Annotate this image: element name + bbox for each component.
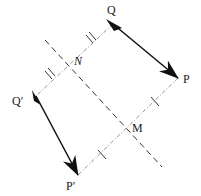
label-q: Q [107, 3, 116, 17]
label-n: N [73, 54, 83, 68]
double-tick-qn [86, 32, 96, 43]
label-p: P [183, 72, 190, 86]
single-tick-pm [151, 97, 159, 106]
vector-q-p [113, 24, 178, 78]
reflection-diagram: Q P Q′ P′ N M [0, 0, 201, 196]
double-tick-nqprime [45, 68, 55, 79]
label-q-prime: Q′ [12, 94, 24, 108]
mirror-line [45, 40, 162, 167]
label-p-prime: P′ [66, 179, 76, 193]
label-m: M [132, 121, 143, 135]
vector-qprime-pprime [36, 96, 78, 175]
